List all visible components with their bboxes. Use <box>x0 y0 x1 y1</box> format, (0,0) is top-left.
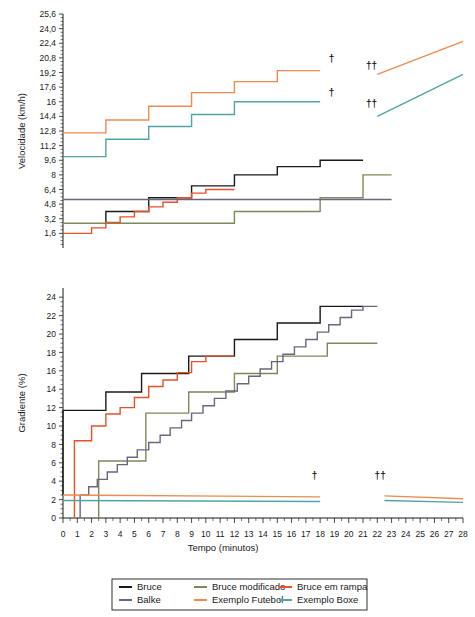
legend: BruceBruce modificadoBruce em rampaBalke… <box>112 579 368 610</box>
series-line <box>63 306 363 495</box>
series-line <box>80 306 377 518</box>
y-tick-label: 22 <box>47 311 57 321</box>
y-tick-label: 4,8 <box>44 199 56 209</box>
legend-label: Exemplo Boxe <box>297 594 358 605</box>
dagger-marker: †† <box>366 98 377 109</box>
y-tick-label: 25,6 <box>39 9 56 19</box>
y-axis-title: Velocidade (km/h) <box>16 93 27 169</box>
series-line <box>377 41 463 74</box>
legend-label: Bruce <box>137 581 162 592</box>
dagger-marker: † <box>329 53 335 64</box>
dagger-marker: †† <box>375 470 386 481</box>
y-tick-label: 12,8 <box>39 126 56 136</box>
legend-item[interactable]: Exemplo Boxe <box>279 594 358 605</box>
x-tick-label: 3 <box>103 529 108 539</box>
series-line <box>63 190 234 234</box>
y-axis-title: Gradiente (%) <box>16 373 27 432</box>
x-tick-label: 18 <box>315 529 325 539</box>
x-tick-label: 15 <box>273 529 283 539</box>
series-line <box>63 495 320 497</box>
x-axis-title: Tempo (minutos) <box>188 542 259 553</box>
series-line <box>63 501 320 502</box>
y-tick-label: 22,4 <box>39 38 56 48</box>
y-tick-label: 16 <box>47 97 57 107</box>
x-tick-label: 13 <box>244 529 254 539</box>
x-tick-label: 9 <box>189 529 194 539</box>
y-tick-label: 8 <box>51 440 56 450</box>
y-tick-label: 2 <box>51 495 56 505</box>
legend-item[interactable]: Bruce <box>119 581 162 592</box>
y-tick-label: 20 <box>47 329 57 339</box>
figure-container: 1,63,24,86,489,611,212,814,41617,619,220… <box>0 0 475 617</box>
series-line <box>384 496 463 499</box>
x-tick-label: 19 <box>330 529 340 539</box>
y-tick-label: 14,4 <box>39 111 56 121</box>
x-tick-label: 12 <box>230 529 240 539</box>
legend-item[interactable]: Bruce modificado <box>194 581 285 592</box>
legend-item[interactable]: Balke <box>119 594 161 605</box>
x-tick-label: 22 <box>373 529 383 539</box>
y-tick-label: 11,2 <box>40 141 56 151</box>
y-tick-label: 12 <box>47 403 57 413</box>
x-tick-label: 2 <box>89 529 94 539</box>
x-tick-label: 17 <box>301 529 311 539</box>
x-tick-label: 1 <box>75 529 80 539</box>
y-tick-label: 16 <box>47 366 57 376</box>
y-tick-label: 0 <box>51 513 56 523</box>
legend-item[interactable]: Exemplo Futebol <box>194 594 283 605</box>
x-tick-label: 27 <box>444 529 454 539</box>
series-line <box>377 74 463 116</box>
x-tick-label: 0 <box>61 529 66 539</box>
legend-label: Balke <box>137 594 161 605</box>
y-tick-label: 6,4 <box>44 185 56 195</box>
y-tick-label: 17,6 <box>39 82 56 92</box>
y-tick-label: 9,6 <box>44 155 56 165</box>
y-tick-label: 10 <box>47 421 57 431</box>
x-tick-label: 11 <box>216 529 225 539</box>
panel-velocidade: 1,63,24,86,489,611,212,814,41617,619,220… <box>16 9 463 248</box>
y-tick-label: 24 <box>47 292 57 302</box>
dagger-marker: † <box>329 87 335 98</box>
x-tick-label: 16 <box>287 529 297 539</box>
y-tick-label: 1,6 <box>44 228 56 238</box>
series-line <box>384 501 463 503</box>
x-tick-label: 8 <box>175 529 180 539</box>
x-tick-label: 24 <box>401 529 411 539</box>
x-tick-label: 25 <box>415 529 425 539</box>
dagger-marker: †† <box>366 60 377 71</box>
series-line <box>63 102 320 157</box>
y-tick-label: 14 <box>47 384 57 394</box>
legend-item[interactable]: Bruce em rampa <box>279 581 368 592</box>
y-tick-label: 24,0 <box>39 24 56 34</box>
y-tick-label: 20,8 <box>39 53 56 63</box>
y-tick-label: 3,2 <box>44 214 56 224</box>
y-tick-label: 19,2 <box>39 68 56 78</box>
x-tick-label: 26 <box>430 529 440 539</box>
panel-gradiente: 024681012141618202224Gradiente (%)012345… <box>16 288 468 553</box>
x-tick-label: 14 <box>258 529 268 539</box>
y-tick-label: 4 <box>51 476 56 486</box>
y-tick-label: 8 <box>51 170 56 180</box>
dagger-marker: † <box>312 470 318 481</box>
x-tick-label: 5 <box>132 529 137 539</box>
x-tick-label: 28 <box>458 529 468 539</box>
y-tick-label: 6 <box>51 458 56 468</box>
x-tick-label: 20 <box>344 529 354 539</box>
x-tick-label: 23 <box>387 529 397 539</box>
x-tick-label: 4 <box>118 529 123 539</box>
legend-label: Bruce modificado <box>212 581 285 592</box>
y-tick-label: 18 <box>47 348 57 358</box>
legend-label: Bruce em rampa <box>297 581 368 592</box>
series-line <box>99 343 378 518</box>
x-tick-label: 7 <box>161 529 166 539</box>
chart-svg: 1,63,24,86,489,611,212,814,41617,619,220… <box>0 0 475 617</box>
x-tick-label: 21 <box>358 529 368 539</box>
x-tick-label: 6 <box>146 529 151 539</box>
legend-label: Exemplo Futebol <box>212 594 283 605</box>
x-tick-label: 10 <box>201 529 211 539</box>
